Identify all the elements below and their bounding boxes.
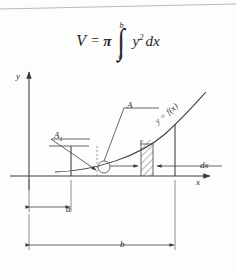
x-axis-label: x (196, 178, 200, 187)
leader-line-A1 (51, 139, 96, 170)
dimension-label-b: b (120, 240, 125, 249)
figure-page: V = π b ∫ a y2 dx (0, 0, 236, 274)
hatched-strip-fill (141, 140, 153, 176)
dimension-label-a: a (66, 205, 71, 214)
leader-line-A (104, 108, 124, 161)
label-area-A1: A1 (54, 131, 63, 142)
label-area-A: A (127, 101, 133, 110)
y-axis-label: y (16, 72, 20, 81)
label-strip-width-dx: dx (200, 161, 209, 170)
disc-element-circle (98, 161, 110, 173)
diagram-canvas (0, 0, 236, 274)
label-A1-subscript: 1 (60, 135, 63, 142)
scan-artifact-line (0, 4, 236, 9)
